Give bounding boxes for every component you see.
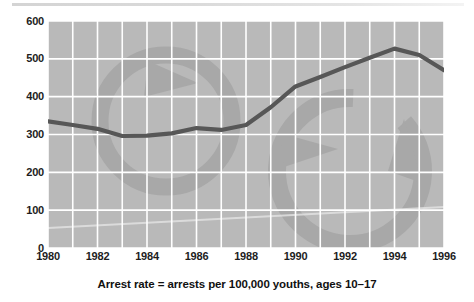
y-tick-label-500: 500 <box>2 53 44 64</box>
plot-area <box>48 21 444 248</box>
top-divider-rule <box>12 3 464 6</box>
y-tick-label-100: 100 <box>2 205 44 216</box>
y-axis: 6005004003002001000 <box>0 21 44 248</box>
x-tick-label-1982: 1982 <box>75 250 121 262</box>
chart-figure: 6005004003002001000 19801982198419861988… <box>0 0 474 302</box>
x-axis: 198019821984198619881990199219941996 <box>48 250 444 266</box>
x-tick-label-1994: 1994 <box>372 250 418 262</box>
y-tick-label-200: 200 <box>2 167 44 178</box>
x-tick-label-1996: 1996 <box>421 250 467 262</box>
x-tick-label-1992: 1992 <box>322 250 368 262</box>
y-tick-label-600: 600 <box>2 16 44 27</box>
y-tick-label-400: 400 <box>2 91 44 102</box>
y-tick-label-300: 300 <box>2 129 44 140</box>
x-tick-label-1980: 1980 <box>25 250 71 262</box>
x-tick-label-1988: 1988 <box>223 250 269 262</box>
x-tick-label-1984: 1984 <box>124 250 170 262</box>
watermark-arrow-right <box>280 133 338 167</box>
chart-caption: Arrest rate = arrests per 100,000 youths… <box>0 278 474 290</box>
x-tick-label-1990: 1990 <box>273 250 319 262</box>
plot-canvas <box>48 21 444 248</box>
x-tick-label-1986: 1986 <box>174 250 220 262</box>
